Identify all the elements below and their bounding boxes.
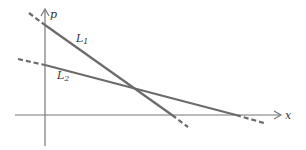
line-l1 (29, 13, 188, 127)
line-l2 (18, 59, 264, 123)
y-axis-label: p (50, 8, 57, 21)
line-l1-label: L1 (75, 32, 88, 46)
x-axis (15, 111, 281, 119)
diagram-canvas: x p L1 L2 (0, 0, 306, 150)
y-axis (41, 9, 49, 146)
x-axis-label: x (285, 109, 292, 122)
